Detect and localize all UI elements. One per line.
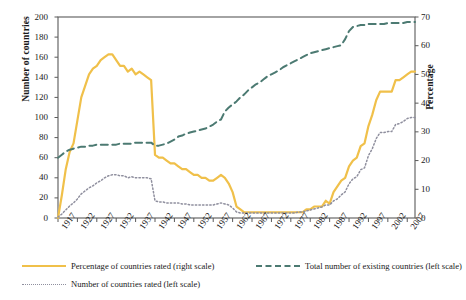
x-tick-label: 1932 bbox=[118, 211, 136, 231]
x-tick-label: 1947 bbox=[176, 211, 194, 231]
legend-swatch-dashed-icon bbox=[256, 261, 300, 271]
legend-label: Percentage of countries rated (right sca… bbox=[71, 261, 214, 271]
x-tick-label: 1992 bbox=[351, 211, 369, 231]
chart-legend: Percentage of countries rated (right sca… bbox=[0, 258, 466, 298]
x-tick-label: 1977 bbox=[293, 211, 311, 231]
chart-figure: Number of countries Percentage 020406080… bbox=[0, 0, 466, 300]
x-tick-label: 1922 bbox=[79, 211, 97, 231]
legend-label: Total number of existing countries (left… bbox=[305, 261, 462, 271]
x-tick-label: 1962 bbox=[235, 211, 253, 231]
legend-row: Percentage of countries rated (right sca… bbox=[0, 258, 466, 274]
x-tick-label: 2002 bbox=[390, 211, 408, 231]
x-tick-label: 1982 bbox=[312, 211, 330, 231]
x-tick-label: 1917 bbox=[60, 211, 78, 231]
x-tick-label: 1952 bbox=[196, 211, 214, 231]
x-tick-label: 1987 bbox=[332, 211, 350, 231]
legend-item[interactable]: Total number of existing countries (left… bbox=[256, 258, 462, 274]
legend-item[interactable]: Number of countries rated (left scale) bbox=[22, 276, 200, 292]
legend-swatch-solid-icon bbox=[22, 261, 66, 271]
x-tick-label: 1927 bbox=[99, 211, 117, 231]
x-tick-label: 2007 bbox=[409, 211, 427, 231]
x-tick-label: 1967 bbox=[254, 211, 272, 231]
legend-row: Number of countries rated (left scale) bbox=[0, 276, 466, 292]
x-tick-label: 1937 bbox=[138, 211, 156, 231]
legend-label: Number of countries rated (left scale) bbox=[71, 279, 200, 289]
legend-swatch-dotted-icon bbox=[22, 279, 66, 289]
x-tick-label: 1957 bbox=[215, 211, 233, 231]
x-tick-label: 1942 bbox=[157, 211, 175, 231]
x-tick-label: 1997 bbox=[370, 211, 388, 231]
x-tick-label: 1972 bbox=[273, 211, 291, 231]
legend-item[interactable]: Percentage of countries rated (right sca… bbox=[22, 258, 214, 274]
x-axis-ticks: 1917192219271932193719421947195219571962… bbox=[0, 0, 466, 300]
